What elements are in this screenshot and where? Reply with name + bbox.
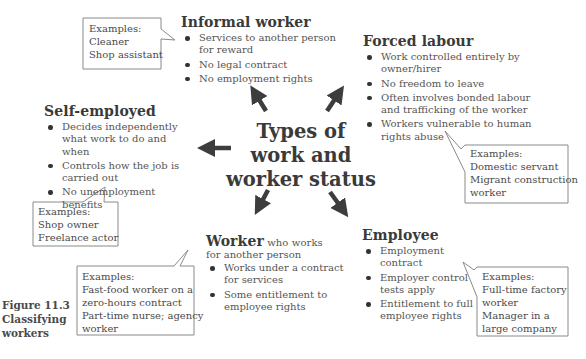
worker-title: Worker [206,233,264,249]
employee-section: Employee Employment contract Employer co… [362,227,482,325]
worker-bullets: Works under a contract for services Some… [206,262,356,313]
self-employed-examples: Examples: Shop owner Freelance actor [38,205,118,244]
examples-label: Examples: [82,270,203,283]
worker-heading: Worker who works [206,233,356,249]
worker-title-suffix: who works [264,237,323,248]
bullet-item: Workers vulnerable to human rights abuse [363,118,533,143]
worker-examples: Examples: Fast-food worker on a zero-hou… [82,270,203,335]
worker-section: Worker who works for another person Work… [206,233,356,315]
bullet-item: Works under a contract for services [206,262,356,287]
example-item: Manager in a [482,309,567,322]
example-item: Full-time factory [482,283,567,296]
center-line-1: Types of [226,120,376,144]
informal-worker-bullets: Services to another person for reward No… [181,32,351,85]
example-item: worker [82,322,203,335]
examples-label: Examples: [89,22,163,35]
examples-label: Examples: [38,205,118,218]
arrow-down-right-icon [330,192,343,210]
center-line-3: worker status [226,168,376,192]
employee-examples: Examples: Full-time factory worker Manag… [482,270,567,335]
example-item: zero-hours contract [82,296,203,309]
informal-examples: Examples: Cleaner Shop assistant [89,22,163,61]
caption-line: Classifying [2,312,70,326]
self-employed-heading: Self-employed [44,103,194,119]
example-item: Part-time nurse; agency [82,309,203,322]
figure-caption: Figure 11.3 Classifying workers [2,298,70,340]
bullet-item: No freedom to leave [363,78,533,90]
example-item: large company [482,322,567,335]
employee-heading: Employee [362,227,482,243]
bullet-item: Work controlled entirely by owner/hirer [363,51,533,76]
bullet-item: Decides independently what work to do an… [44,121,194,158]
arrow-down-left-icon [259,190,268,207]
bullet-item: Employment contract [362,245,482,270]
bullet-item: Services to another person for reward [181,32,351,57]
arrow-up-left-icon [255,93,266,111]
example-item: Domestic servant [470,160,578,173]
forced-labour-heading: Forced labour [363,33,533,49]
worker-subtitle: for another person [206,249,356,260]
bullet-item: Employer control tests apply [362,272,482,297]
bullet-item: Entitlement to full employee rights [362,298,482,323]
self-employed-section: Self-employed Decides independently what… [44,103,194,213]
informal-worker-section: Informal worker Services to another pers… [181,14,351,87]
bullet-item: No employment rights [181,73,351,85]
example-item: Cleaner [89,35,163,48]
bullet-item: Some entitlement to employee rights [206,289,356,314]
self-employed-bullets: Decides independently what work to do an… [44,121,194,211]
forced-examples: Examples: Domestic servant Migrant const… [470,147,578,199]
arrow-up-right-icon [327,93,339,111]
example-item: Freelance actor [38,231,118,244]
bullet-item: Controls how the job is carried out [44,160,194,185]
example-item: worker [470,186,578,199]
caption-line: workers [2,326,70,340]
example-item: worker [482,296,567,309]
employee-bullets: Employment contract Employer control tes… [362,245,482,323]
forced-labour-bullets: Work controlled entirely by owner/hirer … [363,51,533,143]
center-line-2: work and [226,144,376,168]
center-title: Types of work and worker status [226,120,376,192]
example-item: Fast-food worker on a [82,283,203,296]
examples-label: Examples: [482,270,567,283]
examples-label: Examples: [470,147,578,160]
bullet-item: Often involves bonded labour and traffic… [363,92,533,117]
informal-worker-heading: Informal worker [181,14,351,30]
bullet-item: No legal contract [181,59,351,71]
example-item: Shop assistant [89,48,163,61]
forced-labour-section: Forced labour Work controlled entirely b… [363,33,533,145]
figure-label: Figure 11.3 [2,298,70,312]
example-item: Migrant construction [470,173,578,186]
example-item: Shop owner [38,218,118,231]
